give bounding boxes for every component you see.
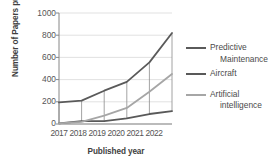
series-lines — [59, 33, 172, 123]
legend-item-predictive-maintenance: Predictive Maintenance — [186, 42, 272, 65]
legend-line-swatch — [186, 47, 206, 49]
drop-lines — [59, 33, 172, 123]
legend-item-artificial-intelligence: Artificial intelligence — [186, 89, 272, 112]
legend-label-cont: intelligence — [210, 100, 272, 112]
legend-line-swatch — [186, 94, 206, 96]
legend-item-aircraft: Aircraft — [186, 68, 272, 80]
legend-label: Predictive — [210, 42, 272, 54]
legend-line-swatch — [186, 73, 206, 75]
gridlines — [59, 13, 172, 124]
legend-label: Aircraft — [210, 68, 272, 80]
legend-label-cont: Maintenance — [210, 54, 272, 66]
line-chart: Number of Papers published 1000 800 600 … — [0, 0, 272, 165]
legend-label: Artificial — [210, 89, 272, 101]
axis-lines — [56, 13, 172, 124]
chart-legend: Predictive Maintenance Aircraft Artifici… — [186, 42, 272, 115]
